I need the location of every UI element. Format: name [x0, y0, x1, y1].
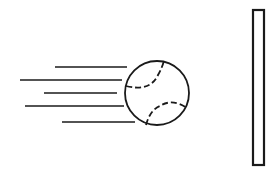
- baseball-outline: [125, 61, 189, 125]
- wall: [253, 10, 264, 165]
- baseball: [125, 60, 189, 125]
- diagram-canvas: [0, 0, 276, 172]
- speed-lines: [20, 67, 135, 122]
